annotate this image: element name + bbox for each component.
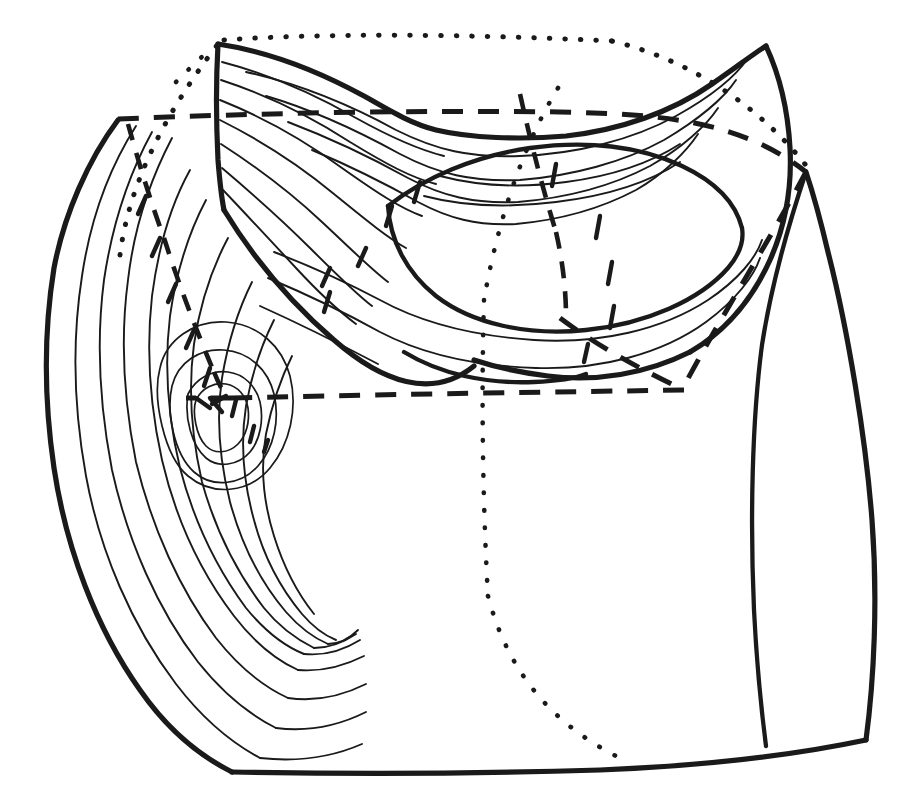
block-diagram-figure: Hand-drawn geological block diagram doub…	[0, 0, 909, 806]
diagram-canvas	[0, 0, 909, 806]
